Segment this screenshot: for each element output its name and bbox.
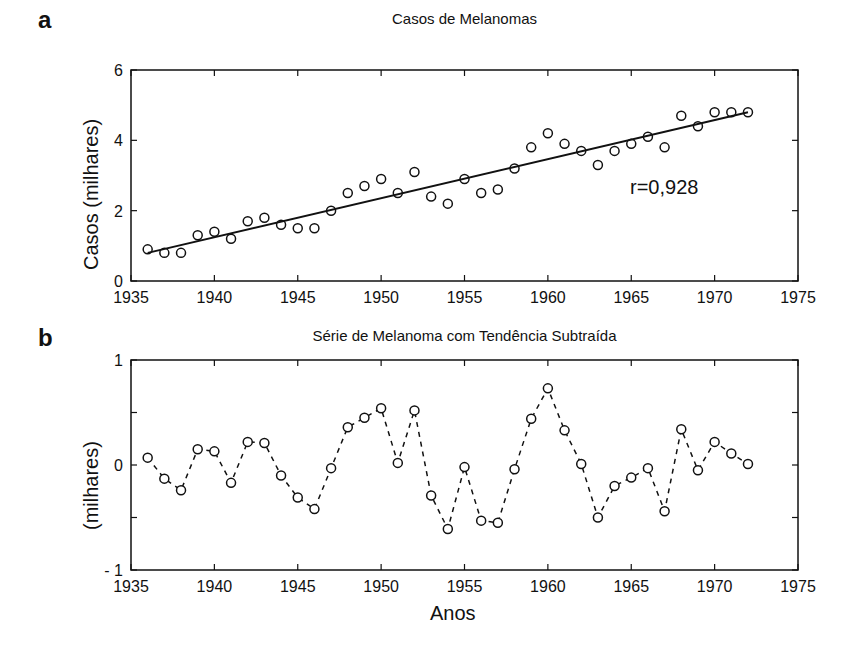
data-point [610, 146, 619, 155]
panel-label-a: a [38, 6, 51, 34]
data-point [160, 474, 169, 483]
series-line [148, 388, 748, 529]
data-point [710, 437, 719, 446]
x-tick-label: 1970 [697, 289, 733, 306]
x-tick-label: 1945 [280, 578, 316, 595]
y-tick-label: 2 [114, 203, 123, 220]
y-tick-label: 4 [114, 132, 123, 149]
data-point [177, 486, 186, 495]
data-point [693, 466, 702, 475]
chart-title-a: Casos de Melanomas [131, 10, 798, 27]
data-point [410, 167, 419, 176]
chart-canvas: 1935194019451950195519601965197019750246… [0, 0, 849, 651]
data-point [343, 189, 352, 198]
data-point [277, 471, 286, 480]
data-point [260, 213, 269, 222]
data-point [410, 406, 419, 415]
x-tick-label: 1955 [447, 578, 483, 595]
data-point [527, 143, 536, 152]
data-point [677, 425, 686, 434]
x-tick-label: 1965 [613, 289, 649, 306]
data-point [610, 482, 619, 491]
data-point [393, 458, 402, 467]
data-point [293, 224, 302, 233]
x-tick-label: 1945 [280, 289, 316, 306]
x-tick-label: 1975 [780, 289, 816, 306]
panel-label-b: b [38, 324, 53, 352]
y-axis-label-b: (milhares) [80, 441, 103, 530]
data-point [543, 384, 552, 393]
data-point [293, 493, 302, 502]
data-point [560, 139, 569, 148]
data-point [243, 437, 252, 446]
data-point [193, 445, 202, 454]
data-point [627, 473, 636, 482]
y-tick-label: 0 [114, 457, 123, 474]
data-point [143, 453, 152, 462]
x-tick-label: 1950 [363, 578, 399, 595]
data-point [310, 224, 319, 233]
data-point [643, 464, 652, 473]
data-point [727, 449, 736, 458]
data-point [377, 404, 386, 413]
x-tick-label: 1965 [613, 578, 649, 595]
data-point [343, 423, 352, 432]
data-point [443, 199, 452, 208]
data-point [493, 518, 502, 527]
data-point [510, 465, 519, 474]
x-axis-label-b: Anos [430, 602, 476, 625]
data-point [493, 185, 502, 194]
x-tick-label: 1935 [113, 578, 149, 595]
data-point [477, 516, 486, 525]
data-point [177, 248, 186, 257]
data-point [260, 438, 269, 447]
y-axis-label-a: Casos (milhares) [80, 119, 103, 270]
data-point [193, 231, 202, 240]
data-point [443, 525, 452, 534]
data-point [227, 234, 236, 243]
data-point [593, 160, 602, 169]
x-tick-label: 1955 [447, 289, 483, 306]
data-point [227, 478, 236, 487]
x-tick-label: 1960 [530, 578, 566, 595]
data-point [743, 459, 752, 468]
data-point [660, 143, 669, 152]
x-tick-label: 1940 [197, 289, 233, 306]
y-tick-label: - 1 [104, 562, 123, 579]
data-point [560, 426, 569, 435]
correlation-annotation: r=0,928 [630, 176, 698, 199]
data-point [460, 463, 469, 472]
data-point [427, 491, 436, 500]
data-point [477, 189, 486, 198]
data-point [593, 513, 602, 522]
data-point [327, 464, 336, 473]
data-point [677, 111, 686, 120]
data-point [577, 459, 586, 468]
x-tick-label: 1970 [697, 578, 733, 595]
data-point [427, 192, 436, 201]
data-point [310, 505, 319, 514]
y-tick-label: 1 [114, 352, 123, 369]
data-point [243, 217, 252, 226]
data-point [543, 129, 552, 138]
data-point [377, 175, 386, 184]
x-tick-label: 1935 [113, 289, 149, 306]
data-point [527, 414, 536, 423]
x-tick-label: 1975 [780, 578, 816, 595]
x-tick-label: 1940 [197, 578, 233, 595]
x-tick-label: 1960 [530, 289, 566, 306]
data-point [210, 447, 219, 456]
y-tick-label: 0 [114, 273, 123, 290]
data-point [710, 108, 719, 117]
y-tick-label: 6 [114, 62, 123, 79]
data-point [660, 507, 669, 516]
chart-title-b: Série de Melanoma com Tendência Subtraíd… [131, 327, 798, 344]
data-point [360, 413, 369, 422]
data-point [210, 227, 219, 236]
x-tick-label: 1950 [363, 289, 399, 306]
data-point [360, 182, 369, 191]
